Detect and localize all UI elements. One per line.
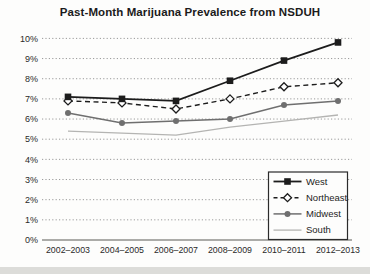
y-tick-label: 3% (25, 175, 38, 185)
y-tick-label: 1% (25, 215, 38, 225)
y-tick-label: 10% (20, 34, 38, 44)
x-tick-label: 2012–2013 (316, 245, 360, 255)
marker-midwest-3 (227, 116, 233, 122)
marker-midwest-2 (173, 118, 179, 124)
marker-midwest-1 (119, 120, 125, 126)
y-tick-label: 9% (25, 54, 38, 64)
marker-midwest-0 (65, 110, 71, 116)
y-tick-label: 8% (25, 74, 38, 84)
scan-artifact-band (0, 267, 370, 274)
legend-label-west: West (306, 176, 328, 187)
y-tick-label: 7% (25, 94, 38, 104)
y-tick-label: 5% (25, 134, 38, 144)
prevalence-line-chart: 0%1%2%3%4%5%6%7%8%9%10%2002–20032004–200… (0, 0, 370, 274)
chart-image: Past-Month Marijuana Prevalence from NSD… (0, 0, 370, 274)
x-tick-label: 2004–2005 (100, 245, 144, 255)
y-tick-label: 4% (25, 155, 38, 165)
legend-label-midwest: Midwest (306, 208, 341, 219)
marker-west-3 (227, 77, 234, 84)
marker-midwest-4 (281, 102, 287, 108)
series-line-northeast (68, 83, 338, 109)
x-tick-label: 2006–2007 (154, 245, 198, 255)
marker-west-1 (119, 96, 126, 103)
legend-marker-midwest (285, 211, 291, 217)
x-tick-label: 2008–2009 (208, 245, 252, 255)
marker-west-4 (281, 57, 288, 64)
legend-label-northeast: Northeast (306, 192, 348, 203)
marker-midwest-5 (335, 98, 341, 104)
y-tick-label: 6% (25, 114, 38, 124)
marker-northeast-2 (172, 105, 180, 113)
marker-west-2 (173, 98, 180, 105)
legend-marker-west (284, 178, 291, 185)
x-tick-label: 2010–2011 (262, 245, 305, 255)
y-tick-label: 0% (25, 235, 38, 245)
marker-west-5 (335, 39, 342, 46)
marker-west-0 (65, 94, 72, 101)
y-tick-label: 2% (25, 195, 38, 205)
series-line-south (68, 115, 338, 135)
legend-label-south: South (306, 224, 331, 235)
marker-northeast-5 (334, 79, 342, 87)
marker-northeast-4 (280, 83, 288, 91)
x-tick-label: 2002–2003 (46, 245, 90, 255)
marker-northeast-3 (226, 95, 234, 103)
series-line-west (68, 42, 338, 100)
